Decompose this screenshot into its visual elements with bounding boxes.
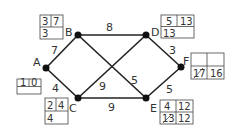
box-f-bottom: 16 (210, 68, 223, 79)
node-label-e: E (150, 102, 157, 115)
weight-a-b: 7 (51, 44, 58, 57)
edges (46, 35, 181, 98)
box-d-value: 13 (180, 16, 193, 27)
weight-e-f: 5 (166, 83, 173, 96)
box-a-value: 0 (31, 77, 37, 88)
box-b-order: 3 (42, 16, 48, 27)
node-label-b: B (65, 26, 73, 39)
node-d (143, 32, 150, 39)
weight-b-d: 8 (106, 21, 113, 34)
node-label-d: D (151, 26, 159, 39)
node-label-f: F (183, 55, 189, 68)
box-e-bottom: 12 (178, 113, 191, 124)
edge-a-c (46, 68, 78, 98)
weight-a-c: 4 (52, 82, 59, 95)
box-c-bottom: 4 (47, 113, 53, 124)
box-b-value: 7 (53, 16, 59, 27)
box-e-value: 12 (178, 101, 191, 112)
box-values: 1 0 3 7 3 2 4 4 5 13 13 17 16 4 12 13 12 (20, 16, 223, 124)
weight-c-e: 9 (108, 101, 115, 114)
box-d-order: 5 (166, 16, 172, 27)
node-label-c: C (69, 102, 77, 115)
box-a-order: 1 (20, 77, 26, 88)
node-b (75, 32, 82, 39)
weight-d-f: 3 (169, 44, 176, 57)
edge-e-f (146, 67, 181, 98)
box-c-order: 2 (47, 100, 53, 111)
box-d-bottom: 13 (163, 28, 176, 39)
network-diagram: A B C D E F 7 4 8 9 5 9 3 5 (0, 0, 237, 125)
weight-c-d: 9 (99, 80, 106, 93)
node-a (43, 65, 50, 72)
node-e (143, 95, 150, 102)
box-b-bottom: 3 (42, 28, 48, 39)
node-label-a: A (33, 56, 41, 69)
box-e-order: 4 (164, 101, 170, 112)
box-c-value: 4 (58, 100, 64, 111)
weight-b-e: 5 (131, 74, 138, 87)
node-c (75, 95, 82, 102)
nodes (43, 32, 185, 102)
